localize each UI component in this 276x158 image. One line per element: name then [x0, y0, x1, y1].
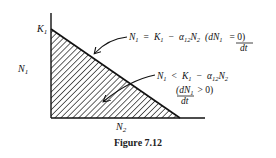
- y-axis-label: N1: [17, 63, 28, 76]
- figure-caption: Figure 7.12: [114, 137, 162, 148]
- x-axis-label: N2: [115, 121, 127, 134]
- arrow-to-isocline: [95, 37, 127, 53]
- isocline-equation: N1=K1−α12N2(dN1= 0): [128, 32, 245, 43]
- growth-inequality: N1<K1−α12N2: [156, 71, 229, 82]
- growth-derivative: (dN1> 0): [176, 85, 213, 96]
- growth-deriv-denominator: dt: [181, 96, 189, 106]
- isocline-deriv-denominator: dt: [240, 43, 248, 53]
- intercept-label: K1: [36, 23, 47, 36]
- isocline-diagram: K1 N1 N2 N1=K1−α12N2(dN1= 0) dt N1<K1−α1…: [0, 0, 276, 158]
